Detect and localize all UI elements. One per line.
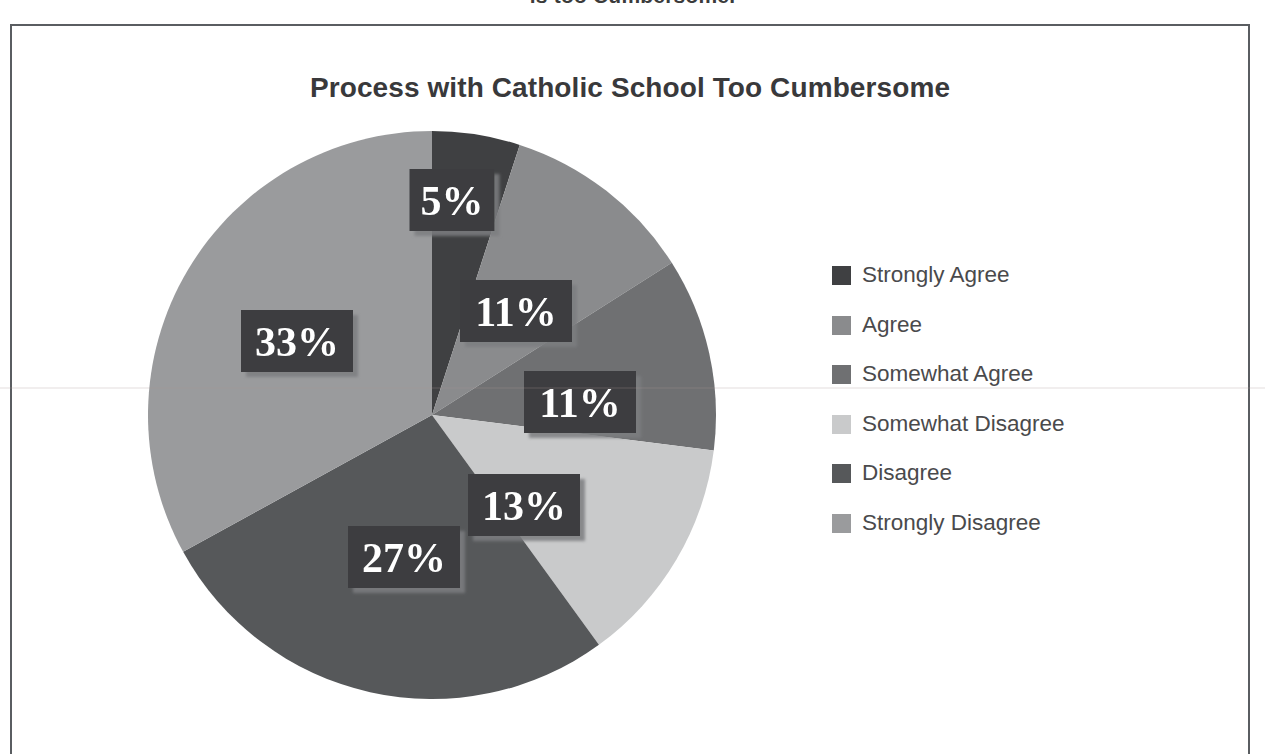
legend-item-label: Strongly Agree: [862, 264, 1010, 287]
legend-color-swatch: [832, 415, 851, 434]
pie-data-label: 5%: [410, 169, 495, 231]
legend-color-swatch: [832, 316, 851, 335]
legend-item: Strongly Agree: [832, 262, 1132, 289]
pie-data-label-text: 5%: [421, 178, 484, 224]
legend-item-label: Disagree: [862, 462, 952, 485]
legend-item: Somewhat Disagree: [832, 411, 1132, 438]
legend-color-swatch: [832, 514, 851, 533]
pie-data-label-text: 11%: [475, 289, 557, 335]
legend-item: Agree: [832, 312, 1132, 339]
pie-data-label: 33%: [241, 310, 353, 372]
legend-color-swatch: [832, 266, 851, 285]
legend-color-swatch: [832, 464, 851, 483]
legend-item-label: Strongly Disagree: [862, 512, 1041, 535]
pie-data-label-text: 33%: [255, 319, 339, 365]
legend-item: Disagree: [832, 460, 1132, 487]
pie-data-label: 13%: [468, 474, 580, 536]
pie-data-label-text: 27%: [362, 535, 446, 581]
legend-item-label: Agree: [862, 314, 922, 337]
legend-item-label: Somewhat Agree: [862, 363, 1033, 386]
legend-item: Strongly Disagree: [832, 510, 1132, 537]
pie-data-label-text: 11%: [539, 380, 621, 426]
chart-legend: Strongly AgreeAgreeSomewhat AgreeSomewha…: [832, 262, 1132, 559]
pie-data-label: 27%: [348, 526, 460, 588]
legend-item: Somewhat Agree: [832, 361, 1132, 388]
pie-data-label-text: 13%: [482, 483, 566, 529]
legend-item-label: Somewhat Disagree: [862, 413, 1065, 436]
pie-data-label: 11%: [524, 371, 636, 433]
legend-color-swatch: [832, 365, 851, 384]
pie-data-label: 11%: [460, 280, 572, 342]
